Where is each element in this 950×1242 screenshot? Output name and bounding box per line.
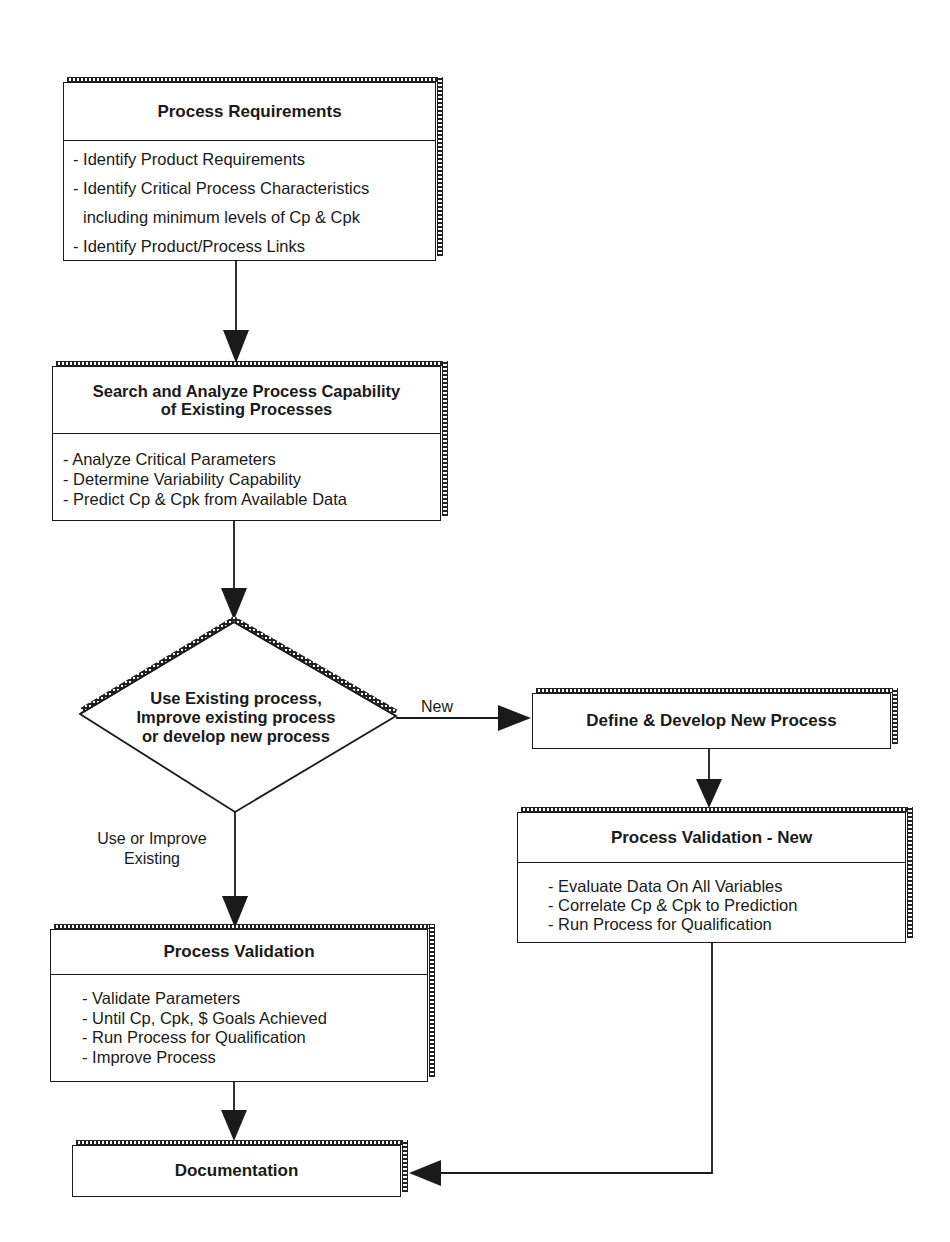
list-item: - Evaluate Data On All Variables — [548, 877, 905, 896]
box-shadow — [76, 1140, 408, 1145]
search-analyze-header: Search and Analyze Process Capability of… — [53, 367, 440, 434]
arrow-requirements-to-search — [223, 261, 249, 363]
define-develop-title: Define & Develop New Process — [586, 712, 836, 730]
edge-label-line: Use or Improve — [82, 829, 222, 849]
list-item: - Determine Variability Capability — [63, 469, 440, 489]
documentation-title: Documentation — [175, 1162, 299, 1180]
box-shadow — [54, 924, 435, 929]
decision-line: or develop new process — [120, 727, 352, 746]
arrow-validation-to-documentation — [221, 1082, 247, 1141]
arrow-decision-to-new — [396, 705, 531, 731]
box-shadow — [429, 924, 435, 1077]
search-analyze-title-line2: of Existing Processes — [161, 400, 333, 418]
list-item: - Identify Product Requirements — [73, 145, 435, 174]
arrow-decision-to-validation — [222, 812, 248, 928]
define-develop-header: Define & Develop New Process — [533, 694, 890, 748]
box-shadow — [402, 1140, 408, 1192]
process-validation-new-title: Process Validation - New — [611, 829, 812, 847]
search-analyze-title-line1: Search and Analyze Process Capability — [93, 382, 401, 400]
documentation-box: Documentation — [72, 1145, 401, 1197]
documentation-header: Documentation — [73, 1146, 400, 1196]
decision-line: Use Existing process, — [120, 689, 352, 708]
process-validation-new-body: - Evaluate Data On All Variables - Corre… — [518, 863, 905, 934]
list-item: - Analyze Critical Parameters — [63, 449, 440, 469]
process-requirements-body: - Identify Product Requirements - Identi… — [64, 141, 435, 261]
search-analyze-box: Search and Analyze Process Capability of… — [52, 366, 441, 521]
box-shadow — [442, 361, 448, 516]
process-requirements-title: Process Requirements — [157, 103, 341, 121]
decision-text: Use Existing process, Improve existing p… — [120, 689, 352, 746]
list-item: - Run Process for Qualification — [82, 1028, 427, 1048]
box-shadow — [67, 77, 443, 82]
arrow-search-to-decision — [221, 521, 247, 620]
process-validation-title: Process Validation — [163, 943, 314, 961]
arrow-validation-new-to-documentation — [409, 943, 712, 1186]
edge-label-existing: Use or Improve Existing — [82, 829, 222, 869]
list-item: - Validate Parameters — [82, 989, 427, 1009]
arrow-define-to-validation-new — [696, 749, 722, 808]
process-validation-new-box: Process Validation - New - Evaluate Data… — [517, 812, 906, 943]
box-shadow — [892, 688, 898, 744]
list-item: - Until Cp, Cpk, $ Goals Achieved — [82, 1009, 427, 1029]
process-validation-box: Process Validation - Validate Parameters… — [50, 929, 428, 1082]
box-shadow — [437, 77, 443, 256]
list-item: including minimum levels of Cp & Cpk — [73, 203, 435, 232]
list-item: - Run Process for Qualification — [548, 915, 905, 934]
process-validation-body: - Validate Parameters - Until Cp, Cpk, $… — [51, 975, 427, 1067]
box-shadow — [56, 361, 448, 366]
list-item: - Improve Process — [82, 1048, 427, 1068]
box-shadow — [907, 807, 913, 938]
list-item: - Identify Product/Process Links — [73, 232, 435, 261]
decision-line: Improve existing process — [120, 708, 352, 727]
process-requirements-box: Process Requirements - Identify Product … — [63, 82, 436, 261]
box-shadow — [521, 807, 913, 812]
process-validation-header: Process Validation — [51, 930, 427, 975]
list-item: - Identify Critical Process Characterist… — [73, 174, 435, 203]
process-requirements-header: Process Requirements — [64, 83, 435, 141]
search-analyze-body: - Analyze Critical Parameters - Determin… — [53, 434, 440, 509]
list-item: - Predict Cp & Cpk from Available Data — [63, 489, 440, 509]
box-shadow — [536, 688, 898, 693]
list-item: - Correlate Cp & Cpk to Prediction — [548, 896, 905, 915]
define-develop-box: Define & Develop New Process — [532, 693, 891, 749]
process-validation-new-header: Process Validation - New — [518, 813, 905, 863]
edge-label-new: New — [421, 697, 453, 717]
edge-label-line: Existing — [82, 849, 222, 869]
